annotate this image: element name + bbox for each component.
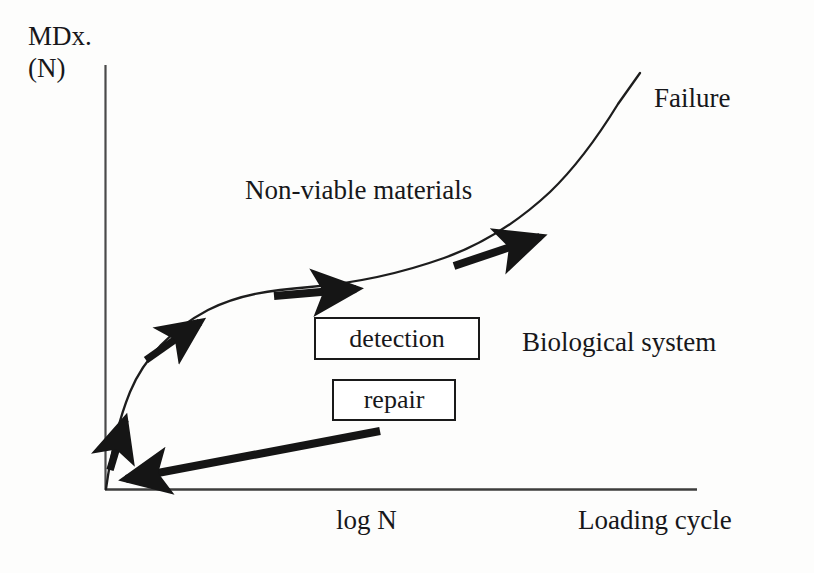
annotation-non-viable-materials: Non-viable materials	[245, 176, 472, 204]
box-detection-label: detection	[349, 324, 444, 354]
annotation-biological-system: Biological system	[522, 328, 716, 356]
box-detection: detection	[314, 317, 480, 360]
y-axis-label-line2: (N)	[28, 54, 65, 82]
figure-root: MDx. (N) Non-viable materials Failure Bi…	[0, 0, 814, 573]
box-repair-label: repair	[364, 385, 425, 415]
x-axis-label-log-n: log N	[336, 506, 397, 534]
arrow-tertiary-rise	[454, 237, 540, 266]
damage-curve	[106, 73, 640, 489]
axis-lines	[105, 65, 697, 490]
x-axis-label-loading-cycle: Loading cycle	[578, 506, 732, 534]
arrow-secondary-rise	[146, 322, 200, 360]
box-repair: repair	[332, 379, 456, 421]
repair-return-arrow	[126, 431, 380, 479]
annotation-failure: Failure	[654, 84, 730, 112]
y-axis-label-line1: MDx.	[28, 22, 92, 50]
